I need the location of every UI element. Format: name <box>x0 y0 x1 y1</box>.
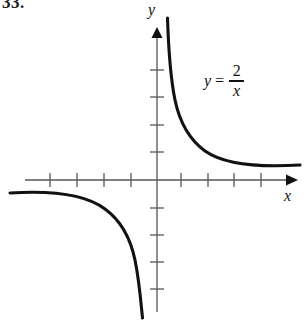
curve-branch-quadrant-3 <box>10 192 143 318</box>
fraction-denominator: x <box>230 82 243 99</box>
figure-container: 33. <box>0 0 306 321</box>
graph-canvas <box>0 0 306 321</box>
fraction-numerator: 2 <box>230 63 244 80</box>
y-axis-arrowhead <box>152 27 163 38</box>
equation-annotation: y = 2 x <box>204 63 244 99</box>
equation-lhs: y <box>204 73 211 89</box>
x-axis-arrowhead <box>286 175 298 186</box>
y-axis-label: y <box>148 2 155 18</box>
x-axis-label: x <box>284 188 291 204</box>
equation-fraction: 2 x <box>229 63 244 99</box>
equation-equals-sign: = <box>215 73 224 89</box>
